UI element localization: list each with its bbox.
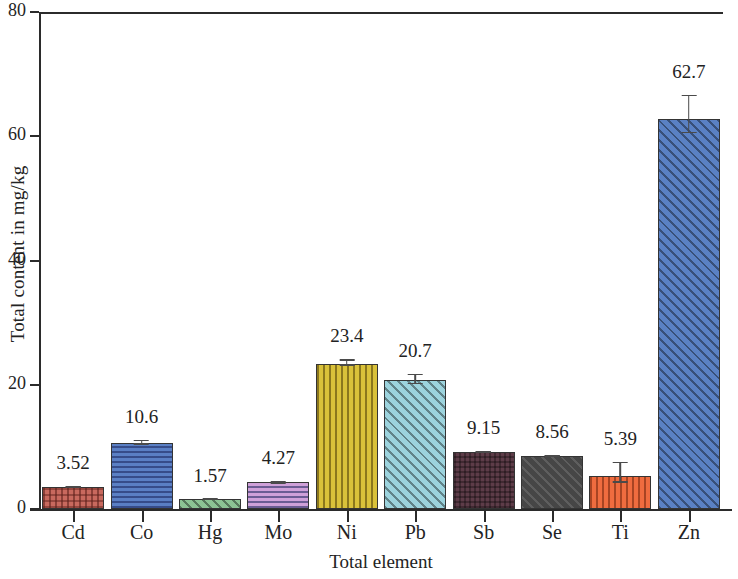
bar-group <box>39 12 107 509</box>
error-bar-cap-bottom <box>66 486 81 488</box>
error-bar-cap-bottom <box>408 383 423 385</box>
error-bar <box>346 359 348 366</box>
bar-value-label: 3.52 <box>39 452 107 474</box>
x-axis-tick-label: Se <box>518 521 586 544</box>
bar-group <box>381 12 449 509</box>
bar <box>179 499 241 509</box>
bar <box>658 119 720 509</box>
bar-value-label: 10.6 <box>108 406 176 428</box>
bar-value-label: 62.7 <box>655 61 723 83</box>
error-bar-cap-bottom <box>613 481 628 483</box>
bar-chart: Total content in mg/kg 020406080 CdCoHgM… <box>0 0 738 579</box>
error-bar-cap-top <box>408 374 423 376</box>
x-axis-tick-label: Ti <box>586 521 654 544</box>
error-bar <box>72 486 74 487</box>
bar <box>453 452 515 509</box>
x-axis-title: Total element <box>36 551 726 573</box>
x-axis-tick-label: Co <box>108 521 176 544</box>
x-axis-tick-label: Zn <box>655 521 723 544</box>
error-bar <box>278 481 280 484</box>
error-bar-cap-top <box>134 440 149 442</box>
x-axis-line <box>30 509 732 511</box>
bar-value-label: 5.39 <box>586 428 654 450</box>
error-bar <box>688 95 690 134</box>
x-axis-tick-label: Hg <box>176 521 244 544</box>
error-bar-cap-bottom <box>271 482 286 484</box>
bar <box>521 456 583 509</box>
bar-value-label: 4.27 <box>244 447 312 469</box>
y-axis-tick-mark <box>30 508 39 510</box>
x-axis-tick-label: Pb <box>381 521 449 544</box>
bar-value-label: 8.56 <box>518 421 586 443</box>
bar <box>247 482 309 509</box>
bar <box>316 364 378 509</box>
bar <box>111 443 173 509</box>
y-axis-tick-label: 0 <box>17 497 26 518</box>
bar-group <box>313 12 381 509</box>
bar-value-label: 20.7 <box>381 340 449 362</box>
x-axis-tick-label: Mo <box>244 521 312 544</box>
x-axis-tick-label: Cd <box>39 521 107 544</box>
error-bar <box>414 374 416 385</box>
y-axis-tick-label: 20 <box>8 373 26 394</box>
error-bar-cap-bottom <box>203 498 218 500</box>
error-bar <box>551 455 553 457</box>
bar-value-label: 1.57 <box>176 465 244 487</box>
error-bar-cap-top <box>339 359 354 361</box>
error-bar-cap-top <box>681 95 696 97</box>
y-axis-tick-label: 60 <box>8 124 26 145</box>
bar-group <box>655 12 723 509</box>
y-axis-tick-mark <box>30 384 39 386</box>
y-axis-tick-label: 40 <box>8 249 26 270</box>
bar-group <box>176 12 244 509</box>
error-bar-cap-bottom <box>134 443 149 445</box>
x-axis-tick-label: Ni <box>313 521 381 544</box>
bar <box>384 380 446 509</box>
bar-value-label: 9.15 <box>450 417 518 439</box>
error-bar-cap-bottom <box>476 451 491 453</box>
bar-value-label: 23.4 <box>313 325 381 347</box>
error-bar-cap-top <box>613 462 628 464</box>
y-axis-tick-mark <box>30 135 39 137</box>
x-axis-tick-label: Sb <box>450 521 518 544</box>
error-bar-cap-bottom <box>681 132 696 134</box>
bar-group <box>244 12 312 509</box>
error-bar-cap-bottom <box>545 455 560 457</box>
error-bar-cap-bottom <box>339 364 354 366</box>
bar <box>42 487 104 509</box>
bar-group <box>108 12 176 509</box>
error-bar <box>141 440 143 445</box>
error-bar <box>209 499 211 500</box>
y-axis-tick-mark <box>30 11 39 13</box>
error-bar <box>483 451 485 453</box>
error-bar <box>620 462 622 483</box>
y-axis-tick-mark <box>30 260 39 262</box>
y-axis-tick-label: 80 <box>8 0 26 21</box>
